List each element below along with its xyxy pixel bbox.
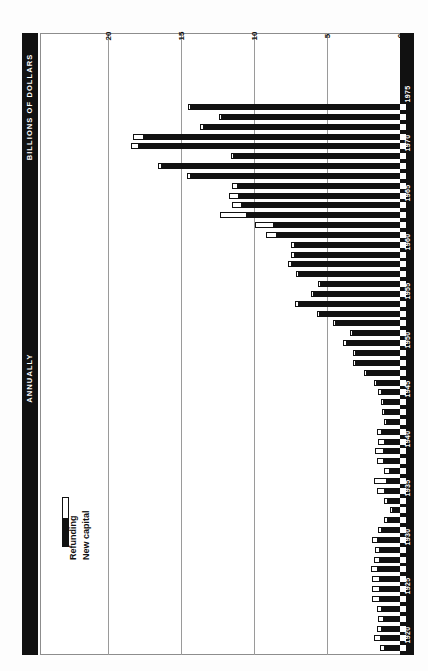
year-tick-mark [400, 301, 406, 307]
bar-segment-refunding [374, 478, 387, 484]
bar-segment-new-capital [384, 399, 400, 405]
year-tick-mark [400, 291, 406, 297]
units-title: BILLIONS OF DOLLARS [22, 54, 38, 161]
bar-segment-new-capital [204, 124, 400, 130]
year-tick-mark [400, 527, 406, 533]
bar-segment-new-capital [380, 576, 400, 582]
year-tick-mark [400, 468, 406, 474]
year-tick-mark [400, 488, 406, 494]
year-tick-mark [400, 566, 406, 572]
bar-row [350, 330, 400, 336]
bar-row [374, 380, 400, 386]
bar-segment-new-capital [274, 222, 400, 228]
bar-row [378, 527, 400, 533]
bar-row [318, 281, 400, 287]
year-tick-mark [400, 537, 406, 543]
bar-segment-new-capital [380, 547, 400, 553]
bar-segment-refunding [266, 232, 278, 238]
bar-row [200, 124, 400, 130]
year-tick-mark [400, 311, 406, 317]
bar-segment-new-capital [314, 291, 400, 297]
year-tick-mark [400, 616, 406, 622]
bar-segment-refunding [377, 488, 386, 494]
year-tick-mark [400, 202, 406, 208]
bar-segment-new-capital [295, 242, 400, 248]
bar-row [390, 507, 400, 513]
bar-segment-refunding [378, 439, 385, 445]
bar-segment-new-capital [378, 537, 400, 543]
year-tick-mark [400, 399, 406, 405]
year-tick-mark [400, 498, 406, 504]
legend-label-refunding: Refunding [68, 516, 78, 561]
bar-segment-new-capital [384, 458, 400, 464]
bar-row [384, 419, 400, 425]
bar-row [220, 212, 400, 218]
bar-segment-new-capital [299, 271, 400, 277]
bar-row [375, 547, 400, 553]
bar-row [158, 163, 400, 169]
bar-row [372, 586, 400, 592]
year-tick-mark [400, 517, 406, 523]
bar-segment-new-capital [239, 193, 400, 199]
year-tick-mark [400, 143, 406, 149]
bar-segment-new-capital [385, 439, 400, 445]
year-tick-mark [400, 360, 406, 366]
year-tick-mark [400, 370, 406, 376]
bar-segment-refunding [377, 458, 384, 464]
bar-segment-new-capital [382, 626, 400, 632]
bar-row [384, 517, 400, 523]
bar-row [382, 409, 400, 415]
bar-segment-refunding [220, 212, 246, 218]
year-tick-mark [400, 429, 406, 435]
year-tick-mark [400, 409, 406, 415]
year-tick-mark [400, 606, 406, 612]
bar-segment-new-capital [356, 350, 400, 356]
bar-segment-new-capital [191, 173, 400, 179]
bar-row [333, 320, 400, 326]
bar-segment-new-capital [139, 143, 400, 149]
bar-segment-new-capital [222, 114, 400, 120]
year-tick-mark [400, 547, 406, 553]
year-tick-mark [400, 350, 406, 356]
year-tick-mark [400, 448, 406, 454]
bar-row [374, 635, 400, 641]
bar-row [371, 566, 400, 572]
bar-row [378, 389, 400, 395]
bar-row [317, 311, 400, 317]
bar-segment-new-capital [353, 330, 400, 336]
bar-segment-new-capital [367, 370, 401, 376]
bar-segment-refunding [131, 143, 138, 149]
bar-segment-new-capital [238, 183, 400, 189]
bar-row [375, 448, 400, 454]
left-axis-spine: BILLIONS OF DOLLARS ANNUALLY [22, 33, 38, 655]
year-tick-mark [400, 281, 406, 287]
bar-segment-new-capital [390, 468, 400, 474]
bar-segment-new-capital [382, 527, 400, 533]
year-tick-mark [400, 439, 406, 445]
bar-segment-new-capital [380, 557, 400, 563]
year-tick-mark [400, 261, 406, 267]
year-tick-mark [400, 380, 406, 386]
bar-segment-new-capital [381, 635, 400, 641]
bar-row [374, 557, 400, 563]
bar-segment-new-capital [380, 596, 400, 602]
bar-segment-new-capital [388, 498, 400, 504]
bar-segment-new-capital [384, 616, 400, 622]
bar-row [364, 370, 401, 376]
bar-segment-new-capital [382, 389, 400, 395]
bar-row [381, 399, 400, 405]
legend: Refunding New capital [62, 497, 182, 609]
bar-segment-refunding [232, 202, 242, 208]
bar-segment-new-capital [387, 419, 400, 425]
frequency-title: ANNUALLY [22, 353, 38, 402]
legend-label-new-capital: New capital [81, 510, 91, 560]
bar-row [295, 301, 400, 307]
bar-row [288, 261, 400, 267]
bar-row [377, 626, 400, 632]
bar-segment-refunding [372, 586, 379, 592]
bar-segment-new-capital [356, 360, 400, 366]
year-tick-mark [400, 134, 406, 140]
bar-row [377, 606, 400, 612]
bar-segment-refunding [375, 448, 384, 454]
bar-segment-new-capital [387, 478, 400, 484]
